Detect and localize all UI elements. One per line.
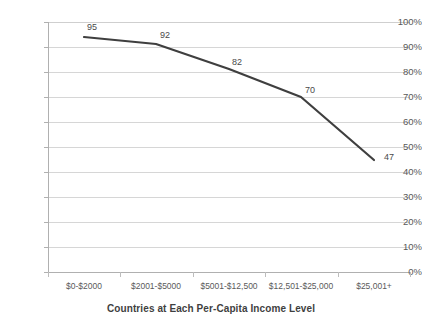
data-label-2: 82 xyxy=(232,57,242,67)
data-label-3: 70 xyxy=(305,85,315,95)
x-axis-title: Countries at Each Per-Capita Income Leve… xyxy=(0,303,422,314)
data-label-0: 95 xyxy=(87,22,97,32)
data-label-1: 92 xyxy=(160,30,170,40)
line-chart: 100% 90% 80% 70% 60% 50% 40% 30% 20% 10%… xyxy=(0,0,422,324)
series-layer xyxy=(0,0,422,324)
series-line-countries xyxy=(84,37,374,160)
data-label-4: 47 xyxy=(384,152,394,162)
